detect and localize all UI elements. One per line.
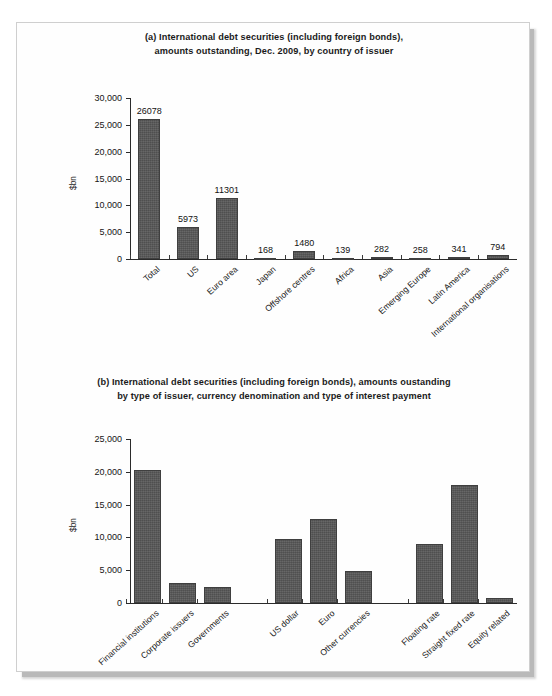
figure-a-title-line1: (a) International debt securities (inclu… (45, 31, 503, 45)
y-tick-mark (126, 537, 131, 538)
x-tick-mark (246, 255, 247, 259)
y-tick-mark (126, 603, 131, 604)
bar (371, 257, 393, 259)
x-category-label: Asia (375, 264, 394, 283)
bar (409, 258, 431, 260)
scanned-page-sheet: (a) International debt securities (inclu… (16, 22, 530, 672)
x-tick-mark (408, 599, 409, 603)
y-tick-mark (126, 125, 131, 126)
bar (134, 470, 161, 603)
x-tick-mark (337, 599, 338, 603)
y-tick-mark (126, 179, 131, 180)
bar-value-label: 168 (258, 245, 273, 255)
bar (216, 198, 238, 259)
x-tick-mark (169, 255, 170, 259)
bar (451, 485, 478, 603)
y-tick-mark (126, 259, 131, 260)
x-tick-mark (401, 255, 402, 259)
x-tick-mark (207, 255, 208, 259)
x-category-label: US (185, 264, 201, 279)
y-axis-title: $bn (68, 176, 78, 190)
y-tick-mark (126, 152, 131, 153)
x-tick-mark (478, 255, 479, 259)
x-tick-mark (362, 255, 363, 259)
figure-b-title: (b) International debt securities (inclu… (17, 376, 529, 403)
y-tick-label: 15,000 (74, 500, 122, 510)
x-tick-mark (443, 599, 444, 603)
x-tick-mark (439, 255, 440, 259)
y-tick-label: 10,000 (74, 200, 122, 210)
x-category-label: Financial institutions (96, 608, 160, 667)
figure-a-title: (a) International debt securities (inclu… (17, 31, 529, 58)
bar (487, 255, 509, 259)
y-tick-label: 5,000 (74, 565, 122, 575)
bar-value-label: 26078 (137, 106, 162, 116)
figure-a-plot: 05,00010,00015,00020,00025,00030,000$bn2… (17, 58, 529, 318)
figure-a-title-line2: amounts outstanding, Dec. 2009, by count… (45, 45, 503, 59)
y-tick-label: 25,000 (74, 120, 122, 130)
bar (345, 571, 372, 603)
bar-value-label: 258 (413, 245, 428, 255)
y-tick-mark (126, 205, 131, 206)
y-tick-mark (126, 98, 131, 99)
bar (416, 544, 443, 603)
y-tick-mark (126, 472, 131, 473)
y-tick-label: 0 (74, 598, 122, 608)
x-category-label: Euro (316, 608, 336, 628)
figure-b-title-line2: by type of issuer, currency denomination… (45, 390, 503, 404)
x-category-label: Total (142, 264, 162, 284)
y-axis-line (130, 439, 131, 604)
x-tick-mark (323, 255, 324, 259)
y-tick-mark (126, 505, 131, 506)
x-tick-mark (130, 255, 131, 259)
page-content: (a) International debt securities (inclu… (17, 23, 529, 671)
bar-value-label: 282 (374, 244, 389, 254)
y-tick-mark (126, 232, 131, 233)
x-tick-mark (302, 599, 303, 603)
x-tick-mark (285, 255, 286, 259)
y-tick-label: 20,000 (74, 147, 122, 157)
x-tick-mark (126, 599, 127, 603)
y-axis-title: $bn (68, 518, 78, 532)
x-category-label: International organisations (429, 264, 511, 339)
bar (332, 258, 354, 260)
bar (448, 257, 470, 259)
y-tick-label: 20,000 (74, 467, 122, 477)
y-tick-label: 5,000 (74, 227, 122, 237)
y-tick-mark (126, 570, 131, 571)
x-axis-line (130, 603, 517, 604)
y-tick-label: 15,000 (74, 174, 122, 184)
x-category-label: Japan (254, 264, 278, 287)
bar-value-label: 1480 (294, 238, 314, 248)
bar-value-label: 11301 (215, 185, 239, 195)
x-category-label: Africa (333, 264, 356, 286)
figure-b-plot: 05,00010,00015,00020,00025,000$bnFinanci… (17, 403, 529, 671)
figure-a: (a) International debt securities (inclu… (17, 31, 529, 318)
x-tick-mark (197, 599, 198, 603)
x-axis-line (130, 259, 517, 260)
figure-b: (b) International debt securities (inclu… (17, 376, 529, 671)
bar (275, 539, 302, 603)
y-tick-label: 30,000 (74, 93, 122, 103)
bar (169, 583, 196, 603)
bar (293, 251, 315, 259)
x-category-label: Euro area (205, 264, 240, 297)
x-tick-mark (162, 599, 163, 603)
bar (177, 227, 199, 259)
x-tick-mark (267, 599, 268, 603)
bar (254, 258, 276, 260)
bar-value-label: 139 (335, 245, 350, 255)
figure-b-title-line1: (b) International debt securities (inclu… (45, 376, 503, 390)
bar (486, 598, 513, 603)
x-category-label: US dollar (268, 608, 301, 639)
bar-value-label: 341 (451, 244, 466, 254)
bar (310, 519, 337, 603)
y-tick-label: 25,000 (74, 434, 122, 444)
bar (138, 119, 160, 259)
y-tick-label: 10,000 (74, 532, 122, 542)
bar-value-label: 794 (490, 242, 505, 252)
y-tick-label: 0 (74, 254, 122, 264)
y-tick-mark (126, 439, 131, 440)
bar (204, 587, 231, 603)
x-tick-mark (478, 599, 479, 603)
